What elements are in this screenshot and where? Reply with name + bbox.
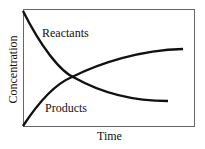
reactants-label: Reactants <box>42 26 89 41</box>
reactants-curve <box>23 11 168 101</box>
x-axis-label: Time <box>97 129 122 144</box>
chart-plot <box>0 0 205 149</box>
products-label: Products <box>45 101 87 116</box>
y-axis-label: Concentration <box>6 30 21 110</box>
